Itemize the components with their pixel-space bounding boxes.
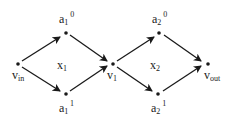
node-a1-1 — [64, 92, 68, 96]
edge-v1-a2-1 — [117, 67, 152, 91]
edge-vin-a1-1 — [22, 67, 60, 91]
edges — [22, 35, 201, 91]
node-v-out — [206, 62, 210, 66]
node-v-in — [16, 62, 20, 66]
edge-a1-0-v1 — [70, 35, 107, 61]
edge-vin-a1-0 — [22, 37, 60, 61]
node-a2-0 — [157, 31, 161, 35]
graph-diagram: vin a10 a11 v1 a20 a21 vout x1 x2 — [0, 0, 235, 124]
label-a1-0: a10 — [59, 10, 74, 27]
label-a2-1: a21 — [151, 99, 166, 116]
edge-v1-a2-0 — [117, 37, 154, 61]
label-x1: x1 — [57, 58, 67, 73]
node-v1 — [111, 62, 115, 66]
label-v-out: vout — [204, 68, 221, 83]
edge-a2-0-vout — [164, 35, 201, 61]
node-a1-0 — [64, 31, 68, 35]
edge-a1-1-v1 — [70, 66, 107, 91]
node-a2-1 — [156, 92, 160, 96]
label-v-in: vin — [12, 68, 24, 83]
label-a1-1: a11 — [59, 99, 74, 116]
edge-a2-1-vout — [163, 66, 201, 91]
nodes — [16, 31, 210, 96]
label-x2: x2 — [150, 58, 160, 73]
label-a2-0: a20 — [152, 10, 167, 27]
label-v1: v1 — [107, 68, 117, 83]
